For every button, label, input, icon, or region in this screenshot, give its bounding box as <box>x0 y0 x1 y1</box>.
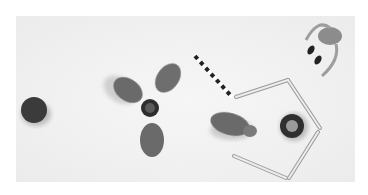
photo <box>16 16 355 182</box>
dark-round-disc <box>21 97 51 126</box>
robot-toy <box>306 25 342 76</box>
round-dish <box>280 113 308 141</box>
hippo-toy <box>208 108 257 140</box>
striped-stick <box>195 56 232 97</box>
photo-scene <box>16 16 355 182</box>
three-lobed-toy <box>98 59 186 157</box>
